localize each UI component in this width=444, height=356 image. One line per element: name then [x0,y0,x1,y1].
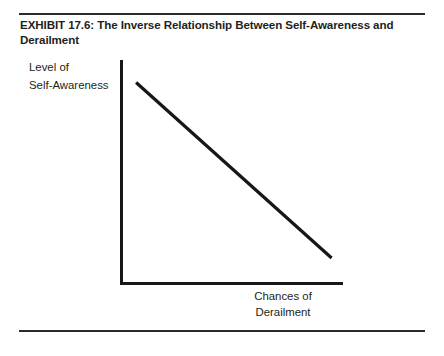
trend-line-group [120,60,350,285]
y-axis-label-line-1: Level of [29,58,117,76]
x-axis-label-line-1: Chances of [222,289,344,305]
y-axis-label-line-2: Self-Awareness [29,76,117,94]
exhibit-figure: Level of Self-Awareness Chances of Derai… [0,0,444,356]
inverse-relationship-trend-line [136,83,332,259]
x-axis-label-line-2: Derailment [222,305,344,321]
x-axis-label: Chances of Derailment [222,289,344,320]
bottom-divider-rule [19,330,425,332]
y-axis-label: Level of Self-Awareness [29,58,117,94]
